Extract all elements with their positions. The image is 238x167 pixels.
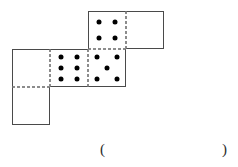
dice-net-figure: [0, 0, 238, 136]
pip-dot: [95, 55, 100, 60]
net-face-blank-middle-left-border: [12, 49, 50, 87]
pip-dot: [95, 76, 100, 81]
net-face-four-border: [88, 11, 126, 49]
net-face-four: [88, 11, 126, 49]
page-root: ( ): [0, 0, 238, 167]
pip-dot: [114, 55, 119, 60]
pip-dot: [74, 76, 79, 81]
pip-dot: [114, 76, 119, 81]
pip-dot: [97, 20, 102, 25]
answer-open-paren: (: [100, 142, 105, 157]
pip-dot: [112, 35, 117, 40]
net-face-blank-bottom-left-border: [12, 87, 50, 125]
pip-dot: [97, 35, 102, 40]
answer-blank[interactable]: [110, 142, 220, 157]
pip-dot: [112, 20, 117, 25]
net-face-blank-top-right: [126, 11, 164, 49]
answer-close-paren: ): [222, 142, 227, 157]
net-face-six-border: [50, 49, 88, 87]
net-face-blank-bottom-left: [12, 87, 50, 125]
pip-dot: [105, 66, 110, 71]
pip-dot: [59, 66, 64, 71]
pip-dot: [74, 66, 79, 71]
pip-dot: [59, 76, 64, 81]
pip-dot: [74, 55, 79, 60]
net-face-blank-middle-left: [12, 49, 50, 87]
answer-line: ( ): [0, 133, 238, 167]
net-face-five: [88, 49, 126, 87]
net-face-blank-top-right-border: [126, 11, 164, 49]
net-face-six: [50, 49, 88, 87]
pip-dot: [59, 55, 64, 60]
